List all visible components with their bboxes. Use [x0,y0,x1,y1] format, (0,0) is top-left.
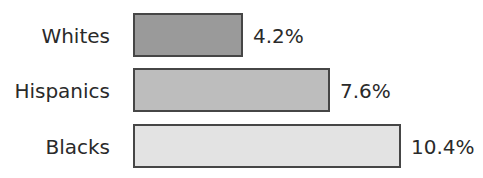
category-label: Hispanics [14,81,110,101]
bar [133,13,243,57]
bar [133,124,401,168]
category-label: Blacks [45,137,110,157]
value-label: 10.4% [411,137,475,157]
bar [133,68,330,112]
value-label: 4.2% [253,26,304,46]
bar-row-whites: Whites4.2% [0,13,483,59]
value-label: 7.6% [340,81,391,101]
category-label: Whites [41,26,110,46]
bar-row-blacks: Blacks10.4% [0,124,483,170]
bar-row-hispanics: Hispanics7.6% [0,68,483,114]
